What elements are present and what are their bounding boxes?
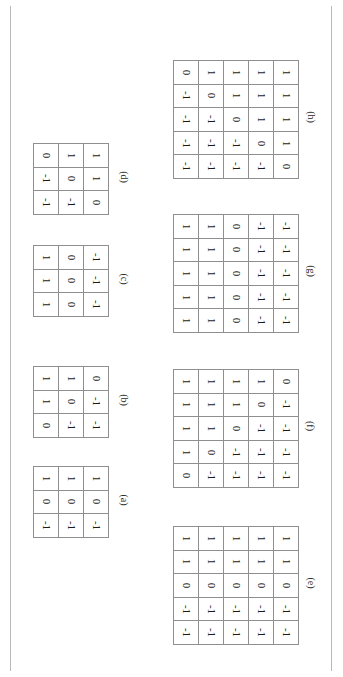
matrix-cell: 0: [59, 293, 84, 317]
matrix-cell-value: 1: [256, 84, 267, 108]
matrix-cell: 1: [274, 108, 299, 132]
matrix-cell: 1: [274, 61, 299, 85]
matrix-cell: -1: [174, 84, 199, 108]
matrix-cell-value: 1: [206, 261, 217, 285]
matrix-cell: 0: [274, 370, 299, 394]
matrix-cell-value: -1: [281, 621, 292, 645]
matrix-cell: -1: [84, 514, 109, 538]
matrix-cell: 0: [249, 131, 274, 155]
matrix-cell-value: 1: [206, 550, 217, 574]
matrix-cell: 1: [174, 393, 199, 417]
matrix-cell-value: 1: [181, 440, 192, 464]
matrix-cell-value: -1: [281, 464, 292, 488]
matrix-cell: 1: [84, 144, 109, 168]
matrix-cell-value: 1: [66, 143, 77, 167]
matrix-cell-value: 1: [41, 390, 52, 414]
matrix-cell-value: -1: [206, 131, 217, 155]
matrix-cell-value: 1: [281, 60, 292, 84]
matrix-cell-value: -1: [66, 190, 77, 214]
matrix-row: 110: [34, 367, 109, 391]
matrix-cell-value: 0: [41, 490, 52, 514]
matrix-cell-value: 0: [41, 143, 52, 167]
matrix-cell: -1: [224, 155, 249, 179]
matrix-cell-value: 1: [91, 466, 102, 490]
matrix-cell: 0: [34, 144, 59, 168]
matrix-row: 110-1-1: [174, 285, 299, 309]
matrix-cell: 1: [224, 84, 249, 108]
matrix-cell: 1: [199, 61, 224, 85]
matrix-cell-value: 1: [256, 550, 267, 574]
matrix-cell-value: -1: [256, 440, 267, 464]
matrix-cell-value: -1: [181, 597, 192, 621]
matrix-cell: 0: [274, 155, 299, 179]
matrix-grid-f: 111101110-1110-1-110-1-1-10-1-1-1-1: [173, 369, 299, 488]
matrix-cell-value: 0: [231, 238, 242, 262]
matrix-cell-value: 1: [256, 107, 267, 131]
matrix-cell-value: -1: [231, 131, 242, 155]
matrix-cell-value: 1: [66, 366, 77, 390]
matrix-cell: 1: [174, 417, 199, 441]
matrix-cell: -1: [249, 597, 274, 621]
matrix-cell-value: 0: [181, 60, 192, 84]
matrix-cell: 1: [274, 527, 299, 551]
matrix-cell: -1: [174, 597, 199, 621]
matrix-cell: 1: [199, 215, 224, 239]
matrix-row: -1-1011: [174, 108, 299, 132]
matrix-cell-value: -1: [231, 155, 242, 179]
matrix-cell-value: 1: [206, 526, 217, 550]
matrix-cell: 1: [199, 393, 224, 417]
matrix-cell: 1: [274, 84, 299, 108]
matrix-row: 10-1: [34, 293, 109, 317]
matrix-cell-value: 0: [231, 285, 242, 309]
matrix-cell-value: 1: [41, 245, 52, 269]
matrix-cell: -1: [224, 597, 249, 621]
matrix-cell: -1: [249, 309, 274, 333]
matrix-cell: 0: [59, 246, 84, 270]
matrix-cell: 0: [174, 61, 199, 85]
matrix-cell: -1: [249, 155, 274, 179]
matrix-cell-value: 0: [66, 490, 77, 514]
matrix-row: 110-1-1: [174, 215, 299, 239]
matrix-cell-value: 1: [281, 107, 292, 131]
matrix-cell-value: 1: [231, 369, 242, 393]
matrix-e: 111111111100000-1-1-1-1-1-1-1-1-1-1: [173, 526, 299, 645]
matrix-cell-value: 1: [181, 214, 192, 238]
matrix-cell: 1: [34, 367, 59, 391]
matrix-cell: -1: [274, 285, 299, 309]
matrix-cell: 1: [34, 246, 59, 270]
matrix-grid-c: 10-110-110-1: [33, 245, 109, 317]
matrix-cell: 1: [174, 440, 199, 464]
matrix-cell: 1: [174, 370, 199, 394]
matrix-cell: -1: [249, 440, 274, 464]
matrix-cell: 1: [274, 131, 299, 155]
matrix-row: -10111: [174, 84, 299, 108]
matrix-cell: 1: [199, 417, 224, 441]
matrix-cell: -1: [274, 215, 299, 239]
matrix-cell-value: -1: [91, 245, 102, 269]
matrix-cell-value: -1: [181, 621, 192, 645]
matrix-cell-value: 1: [256, 526, 267, 550]
matrix-cell-value: -1: [231, 440, 242, 464]
matrix-caption-d: (d): [119, 171, 129, 183]
matrix-cell-value: 0: [281, 155, 292, 179]
matrix-row: -1-1-1-1-1: [174, 621, 299, 645]
matrix-cell-value: -1: [281, 214, 292, 238]
matrix-row: 110-1-1: [174, 417, 299, 441]
matrix-cell-value: -1: [206, 464, 217, 488]
matrix-cell: -1: [274, 464, 299, 488]
matrix-cell-value: 1: [231, 60, 242, 84]
matrix-row: 10-1: [34, 390, 109, 414]
matrix-cell-value: 0: [231, 573, 242, 597]
matrix-cell: 0: [224, 574, 249, 598]
matrix-row: -1-1-1-10: [174, 155, 299, 179]
matrix-cell-value: -1: [256, 309, 267, 333]
matrix-cell-value: 1: [281, 550, 292, 574]
matrix-cell-value: 1: [231, 550, 242, 574]
matrix-cell-value: -1: [231, 597, 242, 621]
matrix-cell-value: -1: [181, 84, 192, 108]
matrix-cell: 1: [174, 527, 199, 551]
matrix-cell-value: 1: [206, 393, 217, 417]
matrix-cell-value: 0: [206, 440, 217, 464]
matrix-cell-value: -1: [231, 464, 242, 488]
matrix-cell-value: -1: [256, 214, 267, 238]
